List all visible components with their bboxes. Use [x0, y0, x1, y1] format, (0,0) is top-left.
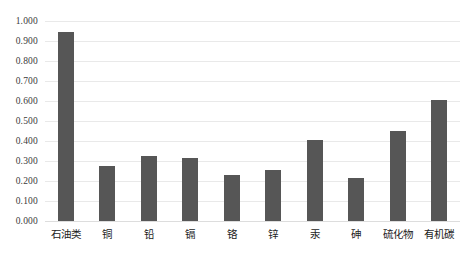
bar-slot [87, 21, 129, 221]
x-tick-label: 铬 [227, 226, 237, 241]
y-tick-label: 0.400 [16, 136, 38, 146]
y-tick-label: 0.700 [16, 76, 38, 86]
y-tick-label: 0.800 [16, 56, 38, 66]
bar[interactable] [99, 166, 115, 221]
x-tick-label: 镉 [185, 226, 195, 241]
bar[interactable] [307, 140, 323, 221]
bar[interactable] [431, 100, 447, 221]
bar[interactable] [265, 170, 281, 221]
x-tick-label: 铅 [144, 226, 154, 241]
y-tick-label: 0.000 [16, 216, 38, 226]
y-tick-label: 0.600 [16, 96, 38, 106]
y-tick-label: 1.000 [16, 16, 38, 26]
y-tick-label: 0.900 [16, 36, 38, 46]
axis-baseline: 0.000 [45, 221, 460, 222]
bar-slot [294, 21, 336, 221]
x-tick-label: 汞 [310, 226, 320, 241]
x-tick-label: 硫化物 [383, 226, 413, 241]
bar[interactable] [141, 156, 157, 221]
bar-slot [419, 21, 461, 221]
bar-chart: 0.0000.1000.2000.3000.4000.5000.6000.700… [0, 0, 465, 267]
y-tick-label: 0.200 [16, 176, 38, 186]
y-tick-label: 0.500 [16, 116, 38, 126]
bar[interactable] [348, 178, 364, 221]
bar[interactable] [182, 158, 198, 221]
bar-slot [128, 21, 170, 221]
y-tick-label: 0.100 [16, 196, 38, 206]
x-tick-label: 铜 [102, 226, 112, 241]
bar-slot [211, 21, 253, 221]
x-tick-label: 石油类 [51, 226, 81, 241]
x-tick-label: 有机碳 [424, 226, 454, 241]
bar-slot [45, 21, 87, 221]
bars-layer [45, 21, 460, 221]
bar-slot [377, 21, 419, 221]
x-axis-labels: 石油类铜铅镉铬锌汞砷硫化物有机碳 [45, 226, 460, 246]
y-tick-label: 0.300 [16, 156, 38, 166]
x-tick-label: 锌 [268, 226, 278, 241]
bar-slot [336, 21, 378, 221]
bar[interactable] [58, 32, 74, 221]
bar[interactable] [390, 131, 406, 221]
bar[interactable] [224, 175, 240, 221]
bar-slot [253, 21, 295, 221]
bar-slot [170, 21, 212, 221]
x-tick-label: 砷 [351, 226, 361, 241]
plot-area: 0.0000.1000.2000.3000.4000.5000.6000.700… [45, 21, 460, 221]
